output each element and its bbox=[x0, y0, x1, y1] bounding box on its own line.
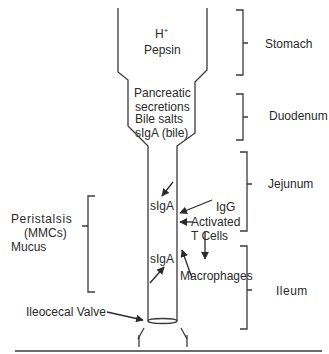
label-pancreatic: Pancreatic bbox=[134, 87, 191, 100]
ileum-bracket bbox=[240, 246, 252, 329]
label-macrophages: Macrophages bbox=[180, 270, 253, 283]
motility-bracket bbox=[82, 196, 95, 292]
label-pepsin: Pepsin bbox=[144, 44, 181, 57]
label-mmcs: (MMCs) bbox=[24, 227, 67, 240]
h-plus-text: H bbox=[155, 27, 164, 41]
h-plus-superscript: + bbox=[164, 26, 169, 35]
label-activated: Activated bbox=[191, 216, 240, 229]
region-ileum: Ileum bbox=[276, 285, 308, 298]
region-duodenum: Duodenum bbox=[269, 110, 328, 123]
label-peristalsis: Peristalsis bbox=[11, 213, 72, 226]
label-siga-lower: sIgA bbox=[150, 253, 174, 266]
tube-end bbox=[148, 319, 177, 324]
label-igg: IgG bbox=[216, 201, 235, 214]
region-stomach: Stomach bbox=[265, 38, 312, 51]
region-jejunum: Jejunum bbox=[268, 178, 313, 191]
stomach-bracket bbox=[236, 10, 248, 75]
label-mucus: Mucus bbox=[11, 241, 46, 254]
arrow-igg bbox=[180, 200, 212, 213]
jejunum-bracket bbox=[240, 152, 252, 231]
label-h-plus: H+ bbox=[155, 24, 168, 41]
arrow-valve bbox=[107, 312, 143, 320]
duodenum-bracket bbox=[236, 94, 248, 140]
label-siga-upper: sIgA bbox=[150, 200, 174, 213]
label-siga-bile: sIgA (bile) bbox=[135, 127, 188, 140]
label-ileocecal-valve: Ileocecal Valve bbox=[26, 306, 106, 319]
arrow-bile-to-siga bbox=[162, 182, 173, 196]
valve-flap-right bbox=[181, 328, 187, 339]
arrow-lower-siga bbox=[150, 267, 164, 283]
label-bile-salts: Bile salts bbox=[135, 113, 183, 126]
label-t-cells: T Cells bbox=[191, 230, 228, 243]
